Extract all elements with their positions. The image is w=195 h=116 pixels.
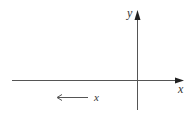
axes-diagram: y x x (0, 0, 195, 116)
y-axis-arrowhead-icon (135, 10, 141, 20)
motion-arrow-label: x (93, 91, 99, 103)
y-axis-label: y (126, 6, 133, 20)
x-axis-label: x (177, 82, 184, 96)
